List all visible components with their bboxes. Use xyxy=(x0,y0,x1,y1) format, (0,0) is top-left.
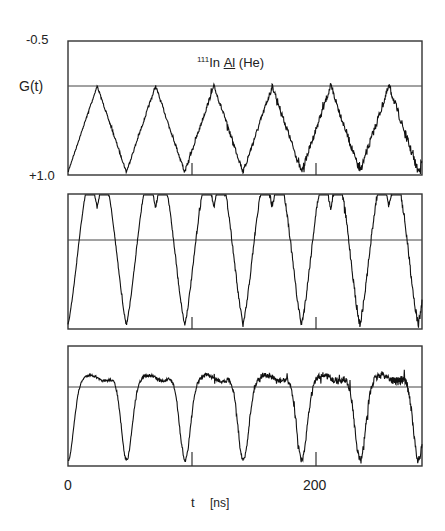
title-host: Al xyxy=(224,55,236,70)
panel-bottom xyxy=(68,346,422,466)
x-axis-label-unit: [ns] xyxy=(210,496,229,510)
ytick-top-label: -0.5 xyxy=(26,32,48,47)
title-mass-number: 111 xyxy=(197,55,209,64)
x-axis-label-t: t xyxy=(191,495,195,510)
perturbed-angular-correlation-figure xyxy=(0,0,445,531)
xtick-200-label: 200 xyxy=(303,477,326,493)
ytick-bottom-label: +1.0 xyxy=(29,168,55,183)
panel-top-trace xyxy=(68,84,422,174)
panel-middle xyxy=(68,194,422,329)
panel-bottom-frame xyxy=(68,346,422,466)
title-probe: In xyxy=(209,55,220,70)
y-axis-label: G(t) xyxy=(19,78,43,94)
panel-bottom-trace xyxy=(68,370,422,464)
chart-title: 111In Al (He) xyxy=(197,55,264,70)
title-ambient: (He) xyxy=(239,55,264,70)
panel-middle-trace xyxy=(68,195,422,328)
xtick-0-label: 0 xyxy=(64,477,72,493)
